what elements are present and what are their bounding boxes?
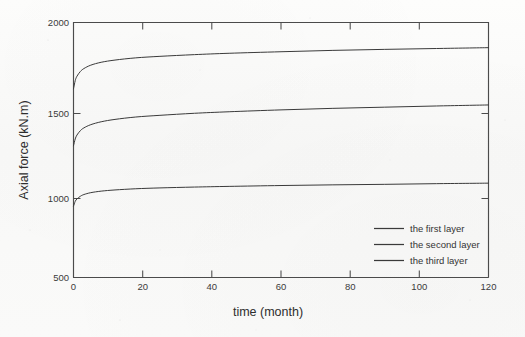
legend-label-third-layer: the third layer — [410, 255, 468, 266]
x-tick-label-120: 120 — [481, 281, 497, 292]
legend-item-second-layer: the second layer — [374, 239, 480, 250]
y-tick-labels: 2000 1500 1000 500 — [48, 17, 69, 283]
y-axis-title: Axial force (kN.m) — [17, 100, 31, 199]
legend-item-third-layer: the third layer — [374, 255, 468, 266]
legend-label-second-layer: the second layer — [410, 239, 480, 250]
x-tick-labels: 0 20 40 60 80 100 120 — [71, 281, 497, 292]
y-tick-label-1500: 1500 — [48, 108, 69, 119]
axial-force-vs-time-chart: 2000 1500 1000 500 0 20 40 60 80 100 120… — [0, 0, 525, 337]
curve-second-layer — [74, 105, 489, 146]
y-tick-label-2000: 2000 — [48, 17, 69, 28]
x-tick-label-20: 20 — [137, 281, 148, 292]
curve-first-layer — [74, 183, 489, 206]
x-tick-label-80: 80 — [345, 281, 356, 292]
x-axis-title: time (month) — [233, 305, 303, 319]
x-tick-label-40: 40 — [207, 281, 218, 292]
data-curves — [74, 48, 489, 206]
x-tick-label-100: 100 — [411, 281, 427, 292]
y-tick-label-1000: 1000 — [48, 193, 69, 204]
y-tick-label-500: 500 — [53, 272, 69, 283]
legend-item-first-layer: the first layer — [374, 223, 464, 234]
legend-label-first-layer: the first layer — [410, 223, 464, 234]
x-tick-label-0: 0 — [71, 281, 76, 292]
figure-page: 2000 1500 1000 500 0 20 40 60 80 100 120… — [0, 0, 525, 337]
x-tick-label-60: 60 — [276, 281, 287, 292]
chart-legend: the first layer the second layer the thi… — [374, 223, 480, 266]
curve-third-layer — [74, 48, 489, 89]
